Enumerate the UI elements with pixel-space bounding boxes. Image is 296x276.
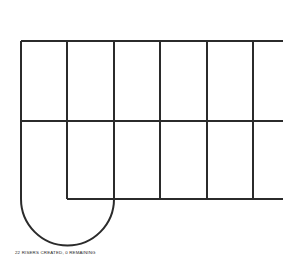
riser-layout-drawing xyxy=(0,0,296,276)
riser-layout-screen: 22 RISERS CREATED, 0 REMAINING xyxy=(0,0,296,276)
status-caption: 22 RISERS CREATED, 0 REMAINING xyxy=(15,250,96,256)
